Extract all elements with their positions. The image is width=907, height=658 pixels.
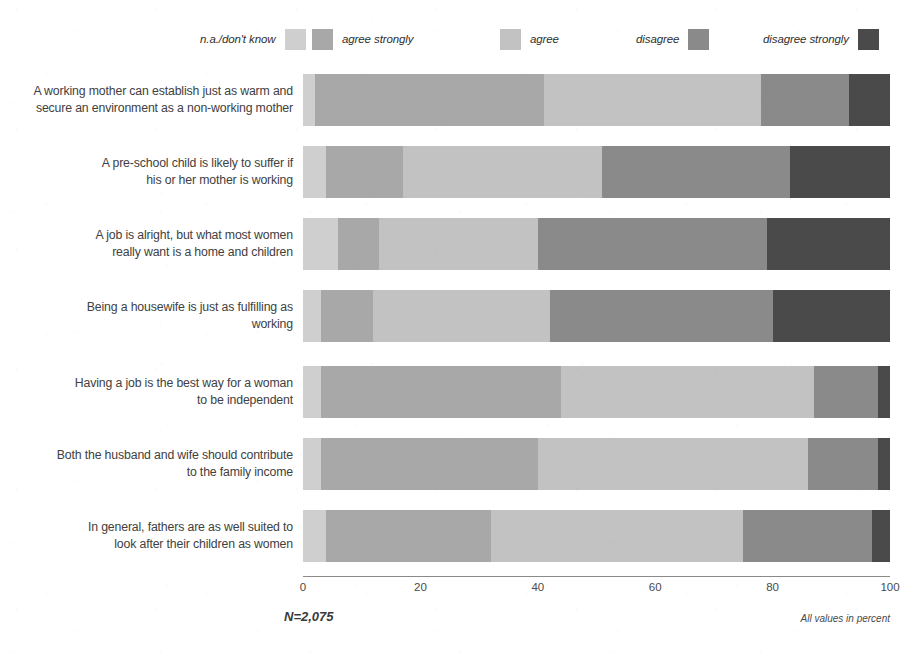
bar-segment[interactable] — [373, 290, 549, 342]
bar-segment[interactable] — [321, 438, 538, 490]
bar-segment[interactable] — [303, 218, 338, 270]
legend-swatch-icon-0 — [285, 29, 306, 50]
category-label-line: working — [252, 316, 293, 334]
category-label-line: A job is alright, but what most women — [96, 227, 293, 245]
units-note: All values in percent — [801, 613, 891, 624]
legend-item-3[interactable]: disagree — [636, 28, 709, 50]
bar-segment[interactable] — [403, 146, 603, 198]
bar-segment[interactable] — [303, 290, 321, 342]
category-label-line: to be independent — [197, 392, 293, 410]
bar-segment[interactable] — [561, 366, 813, 418]
category-label-line: to the family income — [187, 464, 293, 482]
chart-legend: n.a./don't knowagree stronglyagreedisagr… — [0, 28, 907, 54]
category-label-line: Having a job is the best way for a woman — [75, 375, 293, 393]
bar-segment[interactable] — [303, 510, 326, 562]
bar-segment[interactable] — [303, 146, 326, 198]
bar-segment[interactable] — [303, 438, 321, 490]
bar-segment[interactable] — [790, 146, 890, 198]
chart-row: In general, fathers are as well suited t… — [0, 510, 907, 562]
stacked-bar-5[interactable] — [303, 438, 890, 490]
category-label-3: Being a housewife is just as fulfilling … — [8, 290, 293, 342]
chart-plot-area: A working mother can establish just as w… — [0, 66, 907, 578]
legend-label-1: agree strongly — [342, 33, 413, 45]
category-label-4: Having a job is the best way for a woman… — [8, 366, 293, 418]
bar-segment[interactable] — [315, 74, 544, 126]
x-tick-40: 40 — [531, 581, 544, 593]
stacked-bar-6[interactable] — [303, 510, 890, 562]
bar-segment[interactable] — [814, 366, 879, 418]
bar-segment[interactable] — [761, 74, 849, 126]
chart-row: Both the husband and wife should contrib… — [0, 438, 907, 490]
bar-segment[interactable] — [550, 290, 773, 342]
bar-segment[interactable] — [491, 510, 743, 562]
category-label-2: A job is alright, but what most womenrea… — [8, 218, 293, 270]
legend-label-0: n.a./don't know — [200, 33, 276, 45]
bar-segment[interactable] — [808, 438, 878, 490]
bar-segment[interactable] — [326, 510, 490, 562]
legend-item-0[interactable]: n.a./don't know — [200, 28, 306, 50]
category-label-line: look after their children as women — [114, 536, 293, 554]
stacked-bar-0[interactable] — [303, 74, 890, 126]
legend-swatch-icon-2 — [500, 29, 521, 50]
x-tick-0: 0 — [300, 581, 306, 593]
bar-segment[interactable] — [303, 366, 321, 418]
legend-label-4: disagree strongly — [763, 33, 849, 45]
category-label-line: really want is a home and children — [112, 244, 293, 262]
bar-segment[interactable] — [878, 366, 890, 418]
chart-row: Being a housewife is just as fulfilling … — [0, 290, 907, 342]
category-label-line: In general, fathers are as well suited t… — [88, 519, 293, 537]
chart-row: A job is alright, but what most womenrea… — [0, 218, 907, 270]
stacked-bar-4[interactable] — [303, 366, 890, 418]
category-label-1: A pre-school child is likely to suffer i… — [8, 146, 293, 198]
bar-segment[interactable] — [538, 218, 767, 270]
sample-size-label: N=2,075 — [284, 609, 334, 624]
bar-segment[interactable] — [326, 146, 402, 198]
bar-segment[interactable] — [538, 438, 808, 490]
category-label-line: Being a housewife is just as fulfilling … — [87, 299, 293, 317]
x-tick-100: 100 — [880, 581, 899, 593]
bar-segment[interactable] — [544, 74, 761, 126]
category-label-line: his or her mother is working — [146, 172, 293, 190]
stacked-bar-3[interactable] — [303, 290, 890, 342]
chart-row: A pre-school child is likely to suffer i… — [0, 146, 907, 198]
category-label-line: A working mother can establish just as w… — [33, 83, 293, 101]
x-axis-line — [303, 576, 890, 577]
bar-segment[interactable] — [379, 218, 537, 270]
stacked-bar-2[interactable] — [303, 218, 890, 270]
legend-swatch-icon-3 — [688, 29, 709, 50]
legend-label-3: disagree — [636, 33, 679, 45]
legend-swatch-icon-1 — [312, 29, 333, 50]
legend-label-2: agree — [530, 33, 559, 45]
legend-item-4[interactable]: disagree strongly — [763, 28, 879, 50]
category-label-line: A pre-school child is likely to suffer i… — [102, 155, 293, 173]
legend-item-1[interactable]: agree strongly — [312, 28, 413, 50]
bar-segment[interactable] — [872, 510, 890, 562]
bar-segment[interactable] — [321, 290, 374, 342]
legend-item-2[interactable]: agree — [500, 28, 559, 50]
bar-segment[interactable] — [767, 218, 890, 270]
chart-row: A working mother can establish just as w… — [0, 74, 907, 126]
bar-segment[interactable] — [878, 438, 890, 490]
bar-segment[interactable] — [303, 74, 315, 126]
bar-segment[interactable] — [849, 74, 890, 126]
category-label-6: In general, fathers are as well suited t… — [8, 510, 293, 562]
x-tick-80: 80 — [766, 581, 779, 593]
chart-row: Having a job is the best way for a woman… — [0, 366, 907, 418]
bar-segment[interactable] — [321, 366, 562, 418]
stacked-bar-1[interactable] — [303, 146, 890, 198]
category-label-5: Both the husband and wife should contrib… — [8, 438, 293, 490]
category-label-0: A working mother can establish just as w… — [8, 74, 293, 126]
x-tick-60: 60 — [649, 581, 662, 593]
category-label-line: Both the husband and wife should contrib… — [57, 447, 293, 465]
bar-segment[interactable] — [338, 218, 379, 270]
x-tick-20: 20 — [414, 581, 427, 593]
bar-segment[interactable] — [743, 510, 872, 562]
legend-swatch-icon-4 — [858, 29, 879, 50]
bar-segment[interactable] — [602, 146, 790, 198]
category-label-line: secure an environment as a non-working m… — [36, 100, 293, 118]
bar-segment[interactable] — [773, 290, 890, 342]
